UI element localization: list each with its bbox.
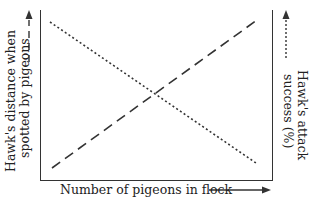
plot-lines xyxy=(0,0,311,200)
y-axis-right-label-line2: success (%) xyxy=(281,70,295,190)
y-axis-left-label-line1: Hawk's distance when xyxy=(4,22,18,172)
y-axis-right-label: Hawk's attack success (%) xyxy=(279,70,309,190)
x-axis-label: Number of pigeons in flock xyxy=(60,183,232,197)
right-axis-key-arrow-icon xyxy=(283,10,290,58)
y-axis-left-label-line2: spotted by pigeons xyxy=(18,22,32,172)
y-axis-left-label: Hawk's distance when spotted by pigeons xyxy=(4,22,34,172)
y-axis-right-label-line1: Hawk's attack xyxy=(295,70,309,190)
